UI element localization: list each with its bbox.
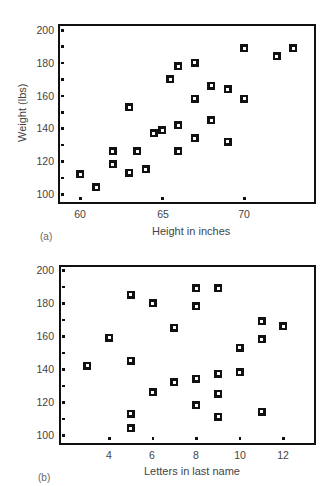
y-minor-tick-dot — [62, 319, 65, 322]
data-point-marker — [192, 375, 200, 383]
data-point-marker — [149, 299, 157, 307]
y-minor-tick-dot — [62, 269, 65, 272]
data-point-marker — [192, 284, 200, 292]
data-point-marker — [105, 334, 113, 342]
y-minor-tick-dot — [62, 385, 65, 388]
xtick-label: 12 — [268, 449, 298, 461]
ytick-label: 140 — [28, 363, 54, 375]
x-tick-dot — [239, 437, 242, 440]
xtick-label: 6 — [137, 449, 167, 461]
ytick-label: 180 — [28, 297, 54, 309]
ytick-label: 120 — [28, 396, 54, 408]
x-axis-label-b: Letters in last name — [144, 465, 240, 477]
data-point-marker — [192, 302, 200, 310]
ytick-label: 160 — [28, 330, 54, 342]
xtick-label: 4 — [94, 449, 124, 461]
data-point-marker — [279, 322, 287, 330]
data-point-marker — [236, 368, 244, 376]
data-point-marker — [192, 401, 200, 409]
ytick-label: 200 — [28, 264, 54, 276]
panel-tag-b: (b) — [38, 472, 50, 483]
data-point-marker — [258, 335, 266, 343]
y-minor-tick-dot — [62, 418, 65, 421]
data-point-marker — [127, 410, 135, 418]
data-point-marker — [127, 291, 135, 299]
data-point-marker — [214, 413, 222, 421]
data-point-marker — [83, 362, 91, 370]
data-point-marker — [170, 378, 178, 386]
x-tick-dot — [195, 437, 198, 440]
y-minor-tick-dot — [62, 352, 65, 355]
data-point-marker — [214, 284, 222, 292]
x-tick-dot — [152, 437, 155, 440]
x-tick-dot — [282, 437, 285, 440]
y-minor-tick-dot — [62, 368, 65, 371]
ytick-label: 100 — [28, 429, 54, 441]
data-point-marker — [214, 370, 222, 378]
data-point-marker — [127, 357, 135, 365]
data-point-marker — [258, 317, 266, 325]
y-minor-tick-dot — [62, 434, 65, 437]
data-point-marker — [127, 424, 135, 432]
x-tick-dot — [108, 437, 111, 440]
data-point-marker — [214, 390, 222, 398]
y-minor-tick-dot — [62, 401, 65, 404]
xtick-label: 8 — [181, 449, 211, 461]
y-minor-tick-dot — [62, 302, 65, 305]
data-point-marker — [149, 388, 157, 396]
plot-frame-b — [59, 265, 316, 445]
data-point-marker — [236, 344, 244, 352]
data-point-marker — [170, 324, 178, 332]
xtick-label: 10 — [225, 449, 255, 461]
y-minor-tick-dot — [62, 286, 65, 289]
chart-panel-b: 200 180 160 140 120 100 4 6 8 10 12 Lett… — [0, 0, 330, 486]
y-minor-tick-dot — [62, 335, 65, 338]
data-point-marker — [258, 408, 266, 416]
